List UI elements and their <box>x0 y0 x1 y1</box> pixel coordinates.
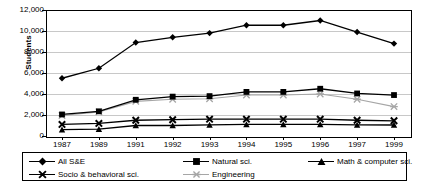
x-tick-mark <box>173 137 174 140</box>
legend-label: All S&E <box>58 157 85 166</box>
legend-item-all-se[interactable]: All S&E <box>29 155 85 168</box>
data-point-marker <box>391 92 397 98</box>
data-point-marker <box>59 75 65 81</box>
x-tick-label: 1996 <box>300 140 340 149</box>
y-tick-label: 10,000 <box>0 27 44 35</box>
x-tick-mark <box>99 137 100 140</box>
data-point-marker <box>169 34 175 40</box>
data-point-marker <box>354 91 360 97</box>
series-engineering <box>58 91 398 119</box>
data-point-marker <box>317 17 323 23</box>
data-point-marker <box>244 89 250 95</box>
x-tick-label: 1994 <box>226 140 266 149</box>
legend-item-natural-sci[interactable]: Natural sci. <box>183 155 252 168</box>
asterisk-marker-icon <box>183 169 209 180</box>
series-line <box>62 89 394 115</box>
series-line <box>62 21 394 79</box>
legend-item-engineering[interactable]: Engineering <box>183 168 255 181</box>
y-tick-label: 8,000 <box>0 48 44 56</box>
y-tick-label: 0 <box>0 132 44 140</box>
series-all-s-e <box>59 17 397 81</box>
x-tick-label: 1992 <box>153 140 193 149</box>
y-tick-label: 4,000 <box>0 90 44 98</box>
data-point-marker <box>206 30 212 36</box>
y-tick-label: 6,000 <box>0 69 44 77</box>
data-point-marker <box>59 112 65 118</box>
legend-label: Math & computer sci. <box>337 157 412 166</box>
data-point-marker <box>317 86 323 92</box>
legend-item-socio-behavioral-sci[interactable]: Socio & behavioral sci. <box>29 168 139 181</box>
series-socio-behavioral-sci <box>59 116 397 128</box>
diamond-marker-icon <box>29 156 55 167</box>
data-point-marker <box>133 97 139 103</box>
legend-item-math-computer-sci[interactable]: Math & computer sci. <box>308 155 412 168</box>
data-point-marker <box>354 29 360 35</box>
x-tick-label: 1987 <box>42 140 82 149</box>
data-point-marker <box>280 89 286 95</box>
x-tick-label: 1993 <box>190 140 230 149</box>
series-line <box>62 124 394 129</box>
chart-legend: All S&E Natural sci. Math & computer sci… <box>22 152 407 181</box>
data-point-marker <box>96 108 102 114</box>
y-tick-label: 2,000 <box>0 111 44 119</box>
data-point-marker <box>170 94 176 100</box>
square-marker-icon <box>183 156 209 167</box>
triangle-marker-icon <box>308 156 334 167</box>
x-tick-mark <box>136 137 137 140</box>
x-tick-label: 1995 <box>263 140 303 149</box>
x-tick-mark <box>210 137 211 140</box>
x-tick-label: 1989 <box>79 140 119 149</box>
x-tick-label: 1991 <box>116 140 156 149</box>
legend-label: Engineering <box>212 170 255 179</box>
series-layer <box>46 10 410 136</box>
data-point-marker <box>316 91 324 97</box>
data-point-marker <box>280 22 286 28</box>
x-tick-mark <box>246 137 247 140</box>
cross-marker-icon <box>29 169 55 180</box>
x-tick-mark <box>283 137 284 140</box>
series-line <box>62 119 394 124</box>
data-point-marker <box>391 40 397 46</box>
x-tick-mark <box>320 137 321 140</box>
y-tick-label: 12,000 <box>0 6 44 14</box>
data-point-marker <box>243 22 249 28</box>
x-tick-label: 1999 <box>374 140 414 149</box>
series-line <box>62 94 394 116</box>
x-tick-label: 1997 <box>337 140 377 149</box>
x-tick-mark <box>62 137 63 140</box>
x-tick-mark <box>394 137 395 140</box>
data-point-marker <box>207 93 213 99</box>
legend-label: Natural sci. <box>212 157 252 166</box>
data-point-marker <box>353 96 361 102</box>
series-natural-sci <box>59 86 397 118</box>
legend-label: Socio & behavioral sci. <box>58 170 139 179</box>
x-tick-mark <box>357 137 358 140</box>
chart-container: Students 12,000 10,000 8,000 6,000 4,000… <box>0 0 421 185</box>
data-point-marker <box>390 103 398 109</box>
